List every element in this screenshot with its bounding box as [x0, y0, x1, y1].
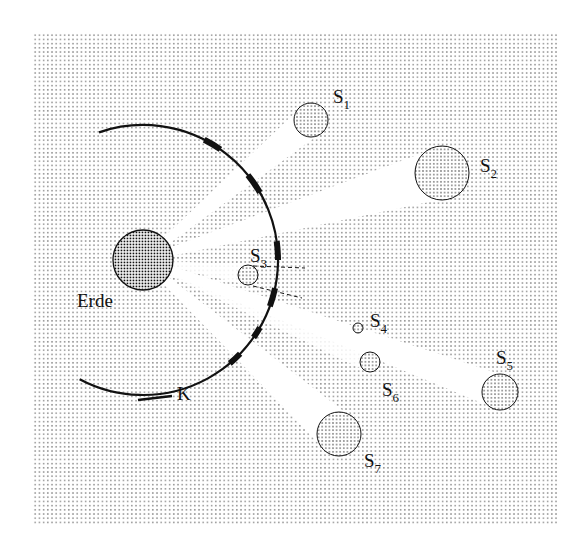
earth-label: Erde: [77, 290, 113, 311]
earth-circle: [113, 230, 173, 290]
star-circle: [360, 352, 380, 372]
circle-k-label: K: [177, 383, 191, 404]
star-circle: [294, 103, 328, 137]
star-circle: [238, 265, 258, 285]
star-circle: [415, 146, 469, 200]
star-circle: [482, 374, 518, 410]
parallax-diagram: Erde S1S2S3S4S5S6S7 K: [0, 0, 583, 551]
star-circle: [353, 323, 363, 333]
dotted-background-panel: [33, 32, 558, 525]
arc-projection-mark: [277, 241, 278, 260]
star-circle: [317, 412, 361, 456]
